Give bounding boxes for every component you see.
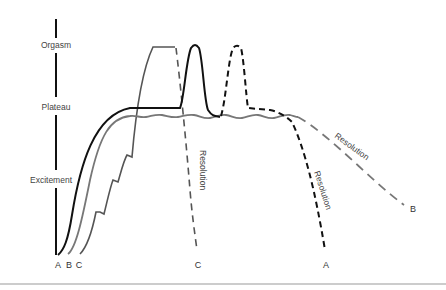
annotation-resolution-b: Resolution xyxy=(333,131,372,163)
curve-b xyxy=(68,115,404,254)
end-label-a: A xyxy=(323,260,329,270)
start-label-b: B xyxy=(66,260,72,270)
sexual-response-cycle-diagram: Orgasm Plateau Excitement Resolution Res… xyxy=(0,0,446,290)
axis-label-excitement: Excitement xyxy=(30,175,73,185)
annotation-resolution-a: Resolution xyxy=(312,170,334,212)
end-label-c: C xyxy=(195,260,202,270)
axis-label-plateau: Plateau xyxy=(42,102,71,112)
start-label-a: A xyxy=(55,260,61,270)
end-label-b: B xyxy=(410,204,416,214)
axis-label-orgasm: Orgasm xyxy=(41,40,71,50)
start-label-c: C xyxy=(76,260,83,270)
annotation-resolution-c: Resolution xyxy=(198,150,208,190)
